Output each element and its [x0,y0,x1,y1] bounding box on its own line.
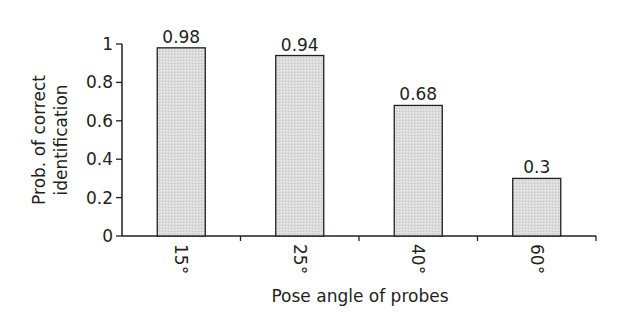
bar-chart: 00.20.40.60.81 15°25°40°60° 0.980.940.68… [0,0,619,317]
y-tick-label: 1 [102,34,113,54]
x-tick-label: 60° [527,244,547,274]
x-tick-label: 15° [171,244,191,274]
bar-value-label: 0.94 [281,35,319,55]
y-axis-title-line-2: identification [51,84,71,195]
bar [276,56,324,236]
bar [157,48,205,236]
y-tick-label: 0.2 [86,188,113,208]
bar [394,105,442,236]
y-tick-label: 0.8 [86,72,113,92]
x-axis-title: Pose angle of probes [271,286,448,306]
y-axis-title-line-1: Prob. of correct [29,75,49,205]
y-tick-label: 0.4 [86,149,113,169]
bar-value-label: 0.98 [162,27,200,47]
bar [513,178,561,236]
y-tick-label: 0.6 [86,111,113,131]
x-tick-label: 40° [408,244,428,274]
bars: 0.980.940.680.3 [157,27,561,236]
y-axis: 00.20.40.60.81 [86,34,122,246]
bar-value-label: 0.68 [399,84,437,104]
bar-value-label: 0.3 [523,157,550,177]
x-axis: 15°25°40°60° [122,236,596,274]
y-tick-label: 0 [102,226,113,246]
x-tick-label: 25° [290,244,310,274]
